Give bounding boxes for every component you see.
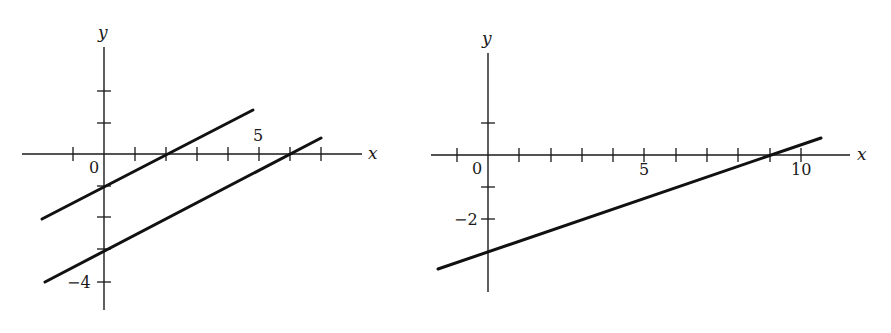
- right-graph: y x 0 5 10 −2: [431, 28, 867, 292]
- left-upper-line: [42, 110, 253, 219]
- right-y-tick-label-neg2: −2: [454, 210, 478, 229]
- left-x-label: x: [368, 143, 378, 163]
- right-line: [438, 138, 821, 269]
- left-graph: y x 0 5 −4: [22, 22, 378, 310]
- right-x-label: x: [857, 144, 867, 164]
- left-x-tick-label-5: 5: [253, 126, 263, 145]
- left-origin-label: 0: [89, 158, 99, 177]
- right-origin-label: 0: [472, 159, 482, 178]
- left-y-label: y: [97, 22, 108, 42]
- right-x-tick-label-10: 10: [791, 160, 811, 179]
- right-y-label: y: [481, 28, 492, 48]
- figure: y x 0 5 −4 y x 0 5 10: [0, 0, 891, 333]
- right-x-tick-label-5: 5: [639, 160, 649, 179]
- left-y-tick-label-neg4: −4: [67, 273, 91, 292]
- left-lower-line: [45, 138, 321, 282]
